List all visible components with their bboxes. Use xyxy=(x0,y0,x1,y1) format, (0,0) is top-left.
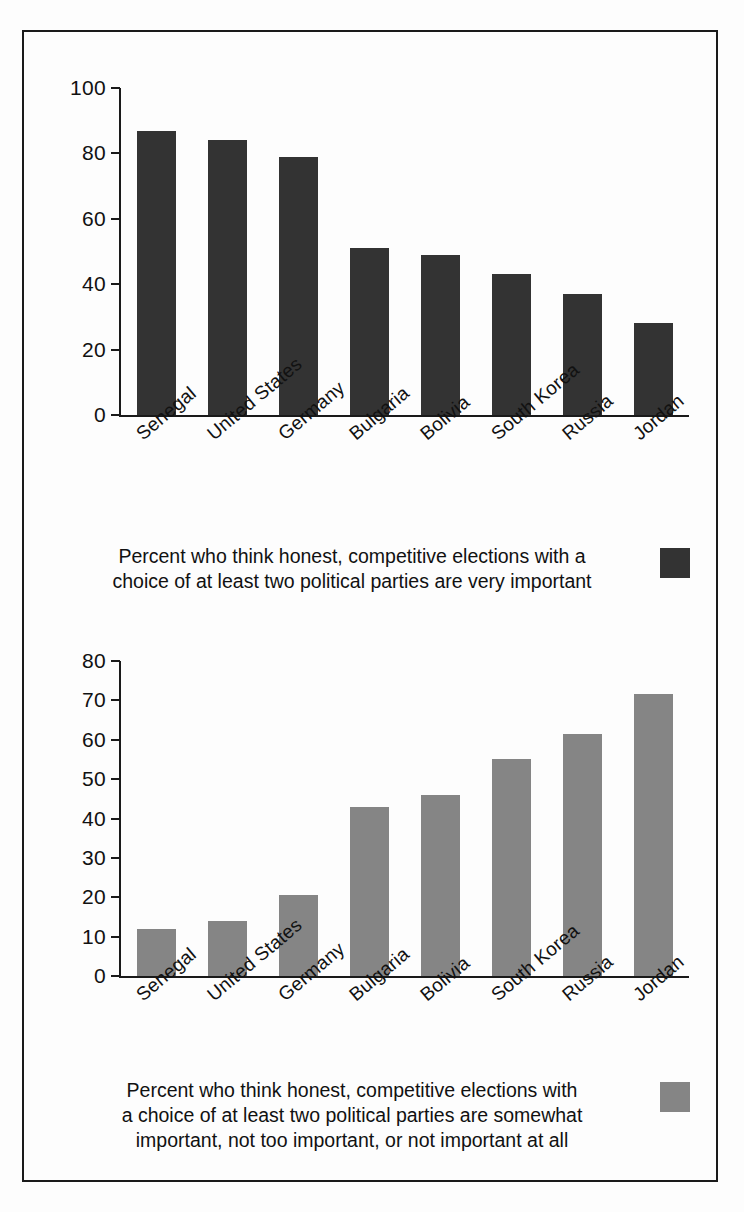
y-tick xyxy=(111,218,120,220)
y-tick xyxy=(111,975,120,977)
y-tick-label: 100 xyxy=(44,76,106,100)
bar xyxy=(421,255,461,415)
y-tick xyxy=(111,936,120,938)
chart-top-caption-line-1: Percent who think honest, competitive el… xyxy=(62,544,642,569)
y-tick-label: 20 xyxy=(44,338,106,362)
chart-top: SenegalUnited StatesGermanyBulgariaBoliv… xyxy=(24,32,716,532)
y-tick-label: 0 xyxy=(44,403,106,427)
figure-border: SenegalUnited StatesGermanyBulgariaBoliv… xyxy=(22,30,718,1182)
y-tick xyxy=(111,778,120,780)
bar xyxy=(137,131,177,415)
chart-bottom: SenegalUnited StatesGermanyBulgariaBoliv… xyxy=(24,608,716,1048)
chart-top-bars xyxy=(121,88,689,415)
y-tick-label: 80 xyxy=(44,649,106,673)
figure-page: SenegalUnited StatesGermanyBulgariaBoliv… xyxy=(0,0,744,1212)
y-tick-label: 30 xyxy=(44,846,106,870)
y-tick-label: 10 xyxy=(44,925,106,949)
y-tick-label: 20 xyxy=(44,885,106,909)
bar xyxy=(208,140,248,415)
chart-bottom-legend-swatch xyxy=(660,1082,690,1112)
y-tick xyxy=(111,87,120,89)
y-tick-label: 60 xyxy=(44,728,106,752)
bar xyxy=(634,694,674,976)
y-tick xyxy=(111,414,120,416)
chart-bottom-bars xyxy=(121,661,689,976)
bar xyxy=(492,759,532,976)
y-tick-label: 40 xyxy=(44,807,106,831)
y-tick-label: 0 xyxy=(44,964,106,988)
y-tick xyxy=(111,739,120,741)
y-tick-label: 80 xyxy=(44,141,106,165)
y-tick xyxy=(111,349,120,351)
y-tick-label: 40 xyxy=(44,272,106,296)
bar xyxy=(492,274,532,415)
chart-bottom-caption-line-3: important, not too important, or not imp… xyxy=(62,1128,642,1153)
bar xyxy=(350,248,390,415)
bar xyxy=(421,795,461,976)
y-tick-label: 60 xyxy=(44,207,106,231)
y-tick xyxy=(111,857,120,859)
chart-top-caption-line-2: choice of at least two political parties… xyxy=(62,569,642,594)
chart-top-x-labels: SenegalUnited StatesGermanyBulgariaBoliv… xyxy=(121,424,689,524)
chart-top-legend-swatch xyxy=(660,548,690,578)
y-tick-label: 70 xyxy=(44,688,106,712)
bar xyxy=(350,807,390,976)
y-tick xyxy=(111,660,120,662)
chart-bottom-caption-line-1: Percent who think honest, competitive el… xyxy=(62,1078,642,1103)
chart-bottom-x-labels: SenegalUnited StatesGermanyBulgariaBoliv… xyxy=(121,985,689,1085)
y-tick xyxy=(111,818,120,820)
chart-top-caption: Percent who think honest, competitive el… xyxy=(62,544,642,594)
y-tick xyxy=(111,699,120,701)
y-tick-label: 50 xyxy=(44,767,106,791)
chart-bottom-caption: Percent who think honest, competitive el… xyxy=(62,1078,642,1153)
y-tick xyxy=(111,152,120,154)
y-tick xyxy=(111,283,120,285)
chart-bottom-caption-line-2: a choice of at least two political parti… xyxy=(62,1103,642,1128)
y-tick xyxy=(111,896,120,898)
